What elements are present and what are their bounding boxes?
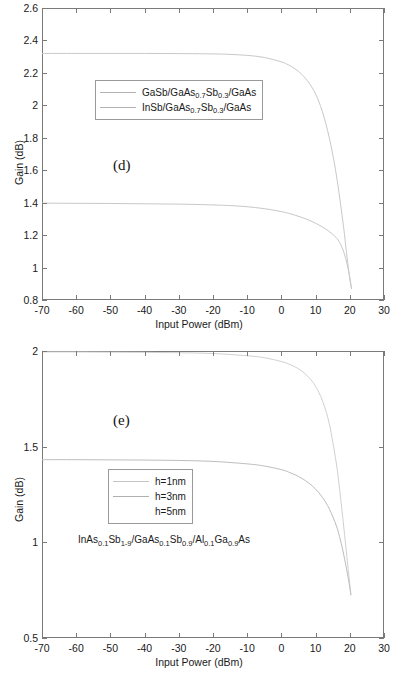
x-tick-label: -20 [205, 643, 220, 654]
y-tick [379, 73, 384, 74]
legend-label: h=1nm [155, 477, 186, 487]
y-tick-label: 0.5 [6, 633, 38, 644]
x-axis-title-d: Input Power (dBm) [155, 318, 243, 330]
y-tick [379, 638, 384, 639]
y-tick [42, 73, 47, 74]
x-tick-label: -50 [103, 305, 118, 316]
chart-panel-e: -70-60-50-40-30-20-1001020300.511.52 Inp… [0, 340, 398, 673]
y-tick [42, 638, 47, 639]
x-tick [350, 633, 351, 638]
x-tick [316, 351, 317, 356]
y-tick [42, 138, 47, 139]
x-tick [281, 8, 282, 13]
x-tick [110, 295, 111, 300]
x-tick-label: 0 [278, 643, 284, 654]
y-tick-label: 2.2 [6, 68, 38, 79]
x-tick [213, 633, 214, 638]
x-tick [247, 351, 248, 356]
y-tick [379, 138, 384, 139]
x-tick-label: -10 [240, 305, 255, 316]
y-tick-label: 0.8 [6, 295, 38, 306]
x-tick [213, 295, 214, 300]
x-tick-label: -30 [171, 643, 186, 654]
x-tick [145, 295, 146, 300]
x-tick [316, 295, 317, 300]
y-tick [379, 170, 384, 171]
x-tick-label: -50 [103, 643, 118, 654]
y-tick-label: 2 [6, 100, 38, 111]
x-tick [247, 295, 248, 300]
x-tick [76, 8, 77, 13]
x-tick [350, 8, 351, 13]
x-tick [247, 633, 248, 638]
y-tick [42, 351, 47, 352]
x-tick-label: -60 [69, 643, 84, 654]
y-axis-title-e: Gain (dB) [13, 477, 25, 522]
legend-item: h=3nm [113, 489, 186, 504]
x-tick [145, 633, 146, 638]
legend-line-sample [100, 92, 136, 93]
y-tick [42, 300, 47, 301]
legend-line-sample [113, 511, 149, 512]
y-tick-label: 1.5 [6, 441, 38, 452]
x-tick [281, 351, 282, 356]
y-tick [42, 542, 47, 543]
x-tick [76, 295, 77, 300]
x-tick-label: 10 [310, 305, 322, 316]
data-curves-d [0, 0, 398, 340]
y-tick [42, 203, 47, 204]
y-tick [42, 235, 47, 236]
y-tick [379, 542, 384, 543]
x-tick [350, 351, 351, 356]
y-tick [42, 170, 47, 171]
y-tick [42, 8, 47, 9]
x-tick [145, 8, 146, 13]
x-tick [110, 8, 111, 13]
legend-label: GaSb/GaAs0.7Sb0.3/GaAs [142, 88, 256, 98]
x-tick [384, 295, 385, 300]
legend-e: h=1nm h=3nm h=5nm [108, 469, 193, 524]
y-tick [379, 447, 384, 448]
y-tick [42, 268, 47, 269]
x-tick [213, 8, 214, 13]
x-tick [316, 8, 317, 13]
legend-item: InSb/GaAs0.7Sb0.3/GaAs [100, 100, 256, 115]
material-annotation-e: InAs0.1Sb1-9/GaAs0.1Sb0.9/Al0.1Ga0.9As [78, 534, 250, 545]
legend-line-sample [100, 107, 136, 108]
y-tick [379, 268, 384, 269]
x-tick [281, 633, 282, 638]
y-tick-label: 2.4 [6, 35, 38, 46]
x-tick-label: 10 [310, 643, 322, 654]
legend-item: GaSb/GaAs0.7Sb0.3/GaAs [100, 85, 256, 100]
y-tick-label: 1.4 [6, 197, 38, 208]
x-tick-label: -70 [34, 643, 49, 654]
x-axis-title-e: Input Power (dBm) [155, 656, 243, 668]
x-tick [384, 8, 385, 13]
x-tick [384, 633, 385, 638]
y-tick [42, 447, 47, 448]
legend-label: h=5nm [155, 507, 186, 517]
x-tick [179, 351, 180, 356]
plot-area-d: -70-60-50-40-30-20-1001020300.811.21.41.… [0, 0, 398, 340]
x-tick [145, 351, 146, 356]
x-tick [316, 633, 317, 638]
legend-label: h=3nm [155, 492, 186, 502]
y-tick-label: 1 [6, 537, 38, 548]
x-tick-label: 0 [278, 305, 284, 316]
x-tick-label: -60 [69, 305, 84, 316]
x-tick [384, 351, 385, 356]
y-tick [379, 8, 384, 9]
x-tick-label: 30 [378, 305, 390, 316]
x-tick [179, 8, 180, 13]
legend-label: InSb/GaAs0.7Sb0.3/GaAs [142, 103, 251, 113]
y-tick [379, 300, 384, 301]
x-tick [76, 351, 77, 356]
x-tick-label: -40 [137, 305, 152, 316]
legend-line-sample [113, 496, 149, 497]
panel-label-e: (e) [113, 412, 130, 429]
x-tick [281, 295, 282, 300]
x-tick-label: -30 [171, 305, 186, 316]
y-tick [42, 40, 47, 41]
legend-item: h=5nm [113, 504, 186, 519]
legend-line-sample [113, 481, 149, 482]
